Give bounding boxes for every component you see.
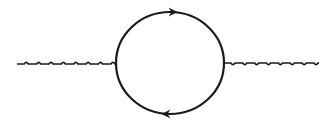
outgoing-boson-line xyxy=(224,63,319,65)
incoming-boson-line xyxy=(17,62,116,64)
feynman-diagram xyxy=(0,0,332,122)
fermion-loop xyxy=(116,12,224,114)
